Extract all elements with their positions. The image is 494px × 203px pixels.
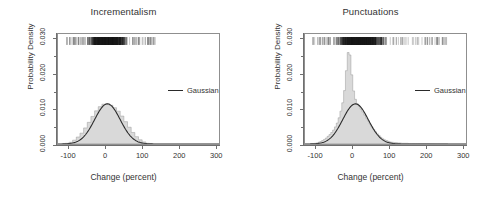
x-axis-tick xyxy=(68,145,69,149)
x-axis-tick xyxy=(216,145,217,149)
x-axis-tick-label: 100 xyxy=(136,151,149,160)
y-axis-title: Probability Density xyxy=(273,1,282,113)
panel-title: Incrementalism xyxy=(0,6,247,17)
y-axis-tick-label: 0.000 xyxy=(39,129,46,159)
x-axis: -1000100200300 xyxy=(57,145,220,151)
x-axis-title: Change (percent) xyxy=(0,172,247,182)
legend: Gaussian xyxy=(415,86,466,95)
x-axis-title: Change (percent) xyxy=(247,172,494,182)
x-axis-tick-label: 200 xyxy=(420,151,433,160)
x-axis-tick xyxy=(179,145,180,149)
x-axis-tick xyxy=(105,145,106,149)
y-axis-tick-label: 0.000 xyxy=(286,129,293,159)
panel-title: Punctuations xyxy=(247,6,494,17)
x-axis-tick-label: 0 xyxy=(103,151,107,160)
x-axis-tick xyxy=(315,145,316,149)
x-axis-tick-label: -100 xyxy=(61,151,76,160)
histogram-bars xyxy=(311,53,448,144)
y-axis-tick-label: 0.020 xyxy=(286,57,293,87)
y-axis-tick-label: 0.020 xyxy=(39,57,46,87)
gaussian-line-swatch xyxy=(415,90,430,92)
y-axis-tick-label: 0.010 xyxy=(39,93,46,123)
x-axis-tick-label: 200 xyxy=(173,151,186,160)
rug-plot xyxy=(67,37,155,45)
legend-label-gaussian: Gaussian xyxy=(187,86,219,95)
x-axis-tick-label: 100 xyxy=(383,151,396,160)
x-axis-tick xyxy=(389,145,390,149)
x-axis: -1000100200300 xyxy=(304,145,467,151)
x-axis-tick-label: 300 xyxy=(210,151,223,160)
x-axis-tick-label: 0 xyxy=(350,151,354,160)
gaussian-line-swatch xyxy=(168,90,183,92)
legend: Gaussian xyxy=(168,86,219,95)
x-axis-tick xyxy=(426,145,427,149)
x-axis-tick xyxy=(142,145,143,149)
two-panel-histogram-figure: Incrementalism Probability Density 0.000… xyxy=(0,0,494,203)
x-axis-tick xyxy=(352,145,353,149)
panel-incrementalism: Incrementalism Probability Density 0.000… xyxy=(0,0,247,203)
y-axis-title: Probability Density xyxy=(26,1,35,113)
x-axis-tick xyxy=(463,145,464,149)
y-axis-tick-label: 0.030 xyxy=(286,22,293,52)
panel-punctuations: Punctuations Probability Density 0.0000.… xyxy=(247,0,494,203)
legend-label-gaussian: Gaussian xyxy=(434,86,466,95)
histogram-bars xyxy=(62,104,153,144)
rug-plot xyxy=(313,37,447,45)
y-axis-tick-label: 0.010 xyxy=(286,93,293,123)
x-axis-tick-label: -100 xyxy=(308,151,323,160)
y-axis-tick-label: 0.030 xyxy=(39,22,46,52)
x-axis-tick-label: 300 xyxy=(457,151,470,160)
